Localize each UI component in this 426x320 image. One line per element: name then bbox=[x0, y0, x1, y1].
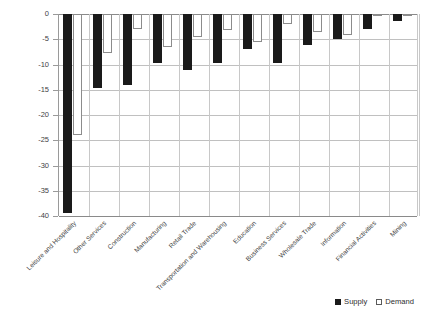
bar-demand bbox=[223, 14, 232, 30]
x-axis-label: Leisure and Hospitality bbox=[21, 220, 77, 276]
y-axis-tick-label: -35 bbox=[38, 187, 49, 195]
bar-supply bbox=[363, 14, 372, 29]
y-axis-tick-label: -25 bbox=[38, 137, 49, 145]
bar-supply bbox=[243, 14, 252, 49]
y-axis-tick-label: -20 bbox=[38, 111, 49, 119]
y-axis-tick-label: 0 bbox=[45, 10, 49, 18]
category-separator bbox=[419, 14, 420, 216]
bar-supply bbox=[213, 14, 222, 63]
legend-label-demand: Demand bbox=[385, 297, 414, 306]
legend-item-demand: Demand bbox=[376, 297, 414, 306]
filled-square-icon bbox=[335, 299, 341, 305]
bar-group bbox=[299, 14, 329, 216]
bar-group bbox=[179, 14, 209, 216]
bar-group bbox=[269, 14, 299, 216]
legend-label-supply: Supply bbox=[344, 297, 367, 306]
x-axis-labels: Leisure and HospitalityOther ServicesCon… bbox=[0, 216, 426, 291]
bar-supply bbox=[393, 14, 402, 21]
bar-demand bbox=[313, 14, 322, 32]
legend-item-supply: Supply bbox=[335, 297, 367, 306]
y-axis-tick-label: -10 bbox=[38, 61, 49, 69]
bar-demand bbox=[103, 14, 112, 53]
bar-group bbox=[329, 14, 359, 216]
bar-supply bbox=[303, 14, 312, 45]
plot-area bbox=[58, 14, 418, 216]
bar-group bbox=[389, 14, 419, 216]
bar-demand bbox=[283, 14, 292, 24]
bar-group bbox=[59, 14, 89, 216]
bar-group bbox=[119, 14, 149, 216]
bar-group bbox=[209, 14, 239, 216]
bar-group bbox=[239, 14, 269, 216]
bar-supply bbox=[93, 14, 102, 88]
bar-group bbox=[149, 14, 179, 216]
bar-supply bbox=[153, 14, 162, 63]
bar-demand bbox=[73, 14, 82, 135]
bar-supply bbox=[273, 14, 282, 63]
y-axis: 0-5-10-15-20-25-30-35-40 bbox=[0, 0, 58, 216]
bar-demand bbox=[403, 14, 412, 16]
bar-supply bbox=[63, 14, 72, 213]
plot-frame bbox=[58, 14, 418, 216]
bar-demand bbox=[343, 14, 352, 35]
y-axis-tick-label: -5 bbox=[42, 36, 49, 44]
y-axis-tick-label: -30 bbox=[38, 162, 49, 170]
y-axis-tick-label: -15 bbox=[38, 86, 49, 94]
bar-chart: 0-5-10-15-20-25-30-35-40 Leisure and Hos… bbox=[0, 0, 426, 320]
bar-supply bbox=[183, 14, 192, 70]
bar-demand bbox=[253, 14, 262, 42]
bar-demand bbox=[133, 14, 142, 29]
bar-group bbox=[89, 14, 119, 216]
bar-demand bbox=[373, 14, 382, 16]
bar-demand bbox=[163, 14, 172, 47]
outlined-square-icon bbox=[376, 299, 382, 305]
bar-supply bbox=[123, 14, 132, 85]
bar-supply bbox=[333, 14, 342, 39]
bar-demand bbox=[193, 14, 202, 37]
bar-group bbox=[359, 14, 389, 216]
chart-legend: Supply Demand bbox=[335, 297, 414, 306]
